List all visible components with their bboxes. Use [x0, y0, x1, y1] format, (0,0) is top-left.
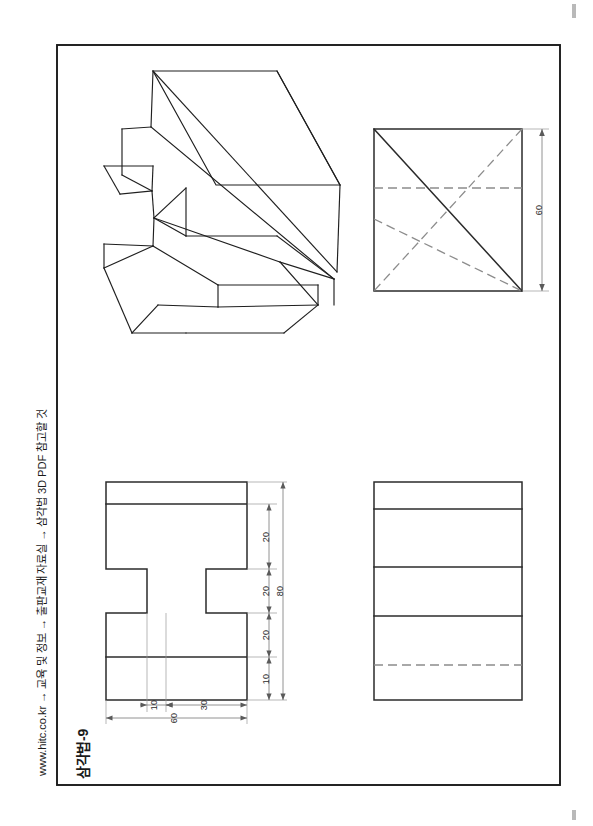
- sheet-title: 삼각법-9: [72, 729, 92, 779]
- dim-front-v4: 10: [261, 674, 271, 684]
- right-side-view: 60: [374, 129, 549, 291]
- dim-front-v1: 20: [261, 532, 271, 542]
- source-reference-note: www.hitc.co.kr → 교육 및 정보 → 출판교재 자료실 → 삼각…: [33, 409, 49, 776]
- front-view: 20 20 20 10 80: [106, 482, 287, 724]
- drawing-sheet: 60 20 20: [0, 0, 593, 826]
- top-view: [374, 482, 522, 700]
- technical-drawing-canvas: 60 20 20: [0, 0, 593, 826]
- dim-front-v3: 20: [261, 630, 271, 640]
- dim-front-h1: 10: [149, 700, 159, 710]
- dim-front-v2: 20: [261, 586, 271, 596]
- dim-front-h2: 30: [199, 700, 209, 710]
- isometric-view: [104, 71, 340, 333]
- dim-side-60: 60: [534, 205, 544, 215]
- sheet-border-frame: [57, 45, 560, 785]
- dim-front-total-v: 80: [275, 586, 285, 596]
- dim-front-total-h: 60: [169, 713, 179, 723]
